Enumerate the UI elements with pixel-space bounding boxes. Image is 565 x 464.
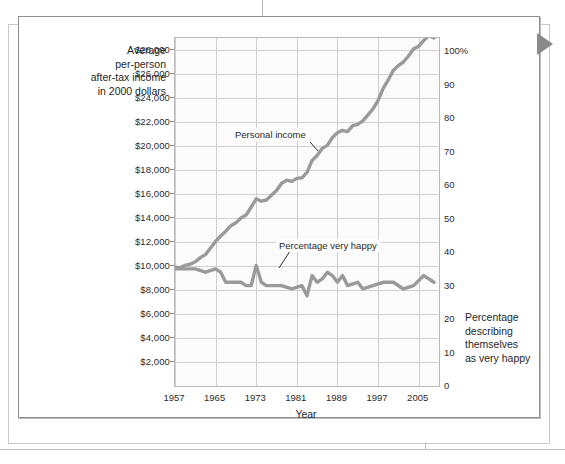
y-axis-tick-label: $6,000 bbox=[86, 308, 170, 319]
secondary-y-axis-tick-label: 80 bbox=[444, 112, 502, 123]
y-axis-tick-label: $14,000 bbox=[86, 212, 170, 223]
secondary-y-axis-tick-label: 60 bbox=[444, 179, 502, 190]
y-axis-tick-label: $16,000 bbox=[86, 188, 170, 199]
secondary-y-axis-tick-label: 30 bbox=[444, 279, 502, 290]
secondary-y-axis-tick-label: 0 bbox=[444, 380, 502, 391]
y-axis-tick-labels: $2,000$4,000$6,000$8,000$10,000$12,000$1… bbox=[82, 37, 170, 385]
x-axis-tick-label: 1973 bbox=[235, 392, 275, 403]
line-percentage-very-happy bbox=[175, 266, 434, 296]
y-axis-tick-label: $8,000 bbox=[86, 284, 170, 295]
secondary-y-axis-tick-labels: 0102030405060708090100% bbox=[444, 37, 504, 385]
secondary-y-axis-tick-label: 100% bbox=[444, 45, 502, 56]
annotation-percentage-very-happy: Percentage very happy bbox=[276, 239, 380, 252]
leader-line-personal-income bbox=[310, 142, 318, 151]
line-personal-income bbox=[175, 38, 434, 268]
secondary-y-axis-tick-label: 50 bbox=[444, 212, 502, 223]
x-axis-tick-label: 1981 bbox=[276, 392, 316, 403]
x-axis-tick-label: 2005 bbox=[398, 392, 438, 403]
y-axis-tick-label: $28,000 bbox=[86, 44, 170, 55]
y-axis-tick-label: $22,000 bbox=[86, 116, 170, 127]
y-axis-tick-label: $2,000 bbox=[86, 356, 170, 367]
x-axis-title: Year bbox=[174, 408, 438, 420]
series-lines bbox=[175, 38, 439, 386]
x-axis-tick-label: 1957 bbox=[154, 392, 194, 403]
secondary-y-axis-tick-label: 90 bbox=[444, 78, 502, 89]
y-axis-tick-label: $12,000 bbox=[86, 236, 170, 247]
x-axis-tick-label: 1965 bbox=[195, 392, 235, 403]
y-axis-tick-label: $20,000 bbox=[86, 140, 170, 151]
y-axis-tick-label: $10,000 bbox=[86, 260, 170, 271]
x-axis-tick-label: 1989 bbox=[316, 392, 356, 403]
secondary-y-axis-tick-label: 70 bbox=[444, 145, 502, 156]
y-axis-tick-label: $24,000 bbox=[86, 92, 170, 103]
y-axis-tick-label: $18,000 bbox=[86, 164, 170, 175]
x-axis-tick-label: 1997 bbox=[357, 392, 397, 403]
plot-area bbox=[174, 37, 440, 387]
secondary-y-axis-tick-label: 10 bbox=[444, 346, 502, 357]
y-axis-tick-label: $26,000 bbox=[86, 68, 170, 79]
y-axis-tick-label: $4,000 bbox=[86, 332, 170, 343]
secondary-y-axis-tick-label: 20 bbox=[444, 313, 502, 324]
secondary-y-axis-tick-label: 40 bbox=[444, 246, 502, 257]
annotation-personal-income: Personal income bbox=[232, 128, 309, 141]
chart: Average per-person after-tax income in 2… bbox=[0, 0, 565, 464]
